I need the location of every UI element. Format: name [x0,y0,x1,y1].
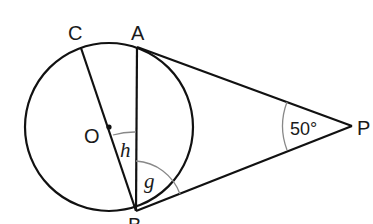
angle-label-g: g [144,169,155,193]
angle-label-h: h [120,138,131,162]
angle-label-p: 50° [290,119,317,139]
label-p: P [357,117,370,139]
geometry-diagram: C A O B P h g 50° [0,0,373,224]
label-a: A [131,22,145,44]
chord-ab [136,47,137,211]
angle-arc-p [283,102,287,150]
label-c: C [68,22,82,44]
tangent-ap [137,47,352,126]
label-b: B [128,214,141,224]
centre-dot [106,124,111,129]
tangent-bp [136,126,352,211]
angle-arc-h [113,132,136,135]
angle-arc-g [136,161,180,194]
label-o: O [84,125,100,147]
